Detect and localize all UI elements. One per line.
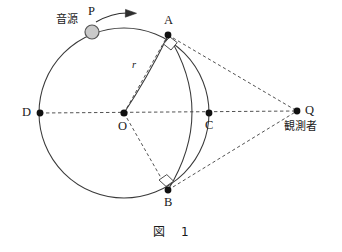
figure-1-diagram: 音源 P A B C D O Q 観測者 r 図 1	[0, 0, 342, 252]
radius-label-r: r	[132, 60, 136, 71]
point-label-o: O	[118, 120, 127, 133]
point-dot-b[interactable]	[165, 187, 172, 194]
point-label-d: D	[22, 106, 31, 119]
point-dot-o[interactable]	[120, 109, 127, 116]
point-label-p: P	[88, 5, 95, 18]
point-dot-q[interactable]	[294, 108, 301, 115]
axis-line-dq	[40, 111, 297, 113]
observer-label: 観測者	[284, 121, 318, 132]
point-dot-a[interactable]	[165, 32, 172, 39]
point-dot-c[interactable]	[206, 110, 213, 117]
sound-source-label: 音源	[56, 14, 78, 25]
figure-caption: 図 1	[0, 222, 342, 239]
point-label-b: B	[164, 196, 172, 209]
direction-arrow-shaft	[96, 13, 127, 22]
direction-arrow-head	[125, 9, 136, 17]
tangent-line-bq	[168, 111, 297, 190]
point-label-q: Q	[305, 104, 314, 117]
tangent-line-aq	[168, 35, 297, 111]
point-dot-d[interactable]	[37, 110, 44, 117]
point-label-c: C	[205, 119, 213, 132]
segment-oa-dashed	[124, 35, 168, 113]
sound-source-marker[interactable]	[85, 25, 99, 39]
point-label-a: A	[164, 14, 173, 27]
